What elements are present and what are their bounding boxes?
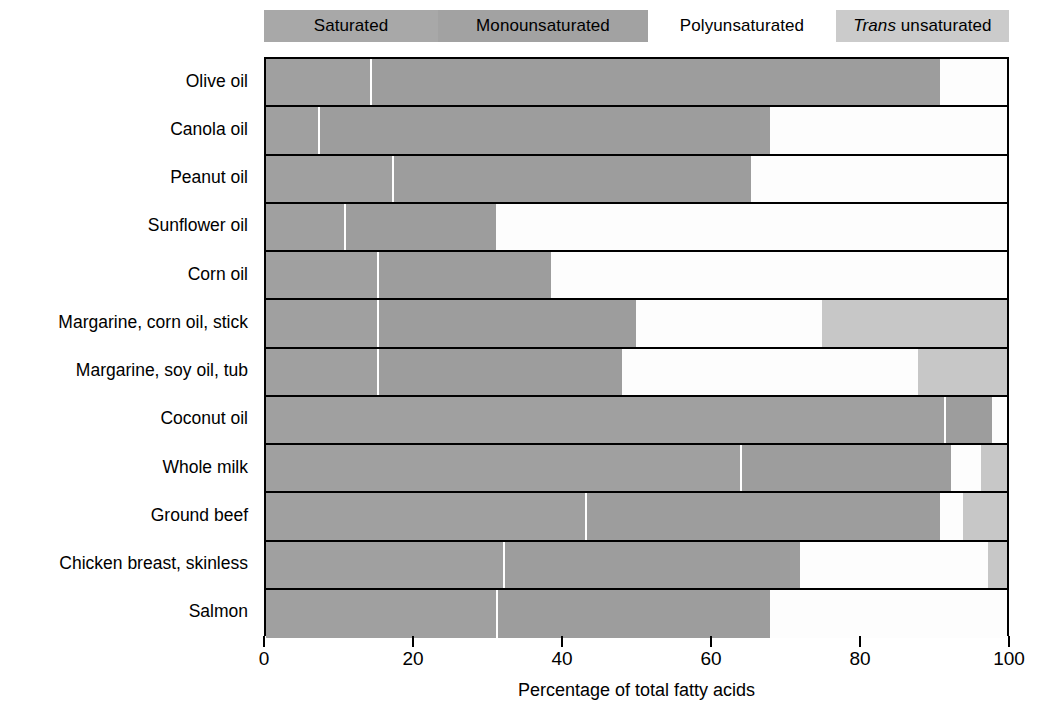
bar-row (266, 445, 1007, 493)
category-label: Sunflower oil (0, 202, 256, 250)
bar-segment-trans (963, 493, 1007, 539)
category-label: Coconut oil (0, 395, 256, 443)
bar-segment-sat (266, 59, 370, 105)
bar-segment-poly (636, 300, 821, 346)
bar-segment-poly (940, 59, 1007, 105)
category-label: Olive oil (0, 57, 256, 105)
x-axis-title: Percentage of total fatty acids (264, 680, 1009, 701)
x-tick (263, 636, 265, 647)
bar-segment-sat (266, 156, 392, 202)
x-tick-label: 80 (849, 648, 870, 670)
category-label: Salmon (0, 588, 256, 636)
category-label: Corn oil (0, 250, 256, 298)
bar-row (266, 204, 1007, 252)
plot-area (264, 57, 1009, 636)
bar-row (266, 252, 1007, 300)
bar-segment-sat (266, 300, 377, 346)
bar-segment-mono (344, 204, 496, 250)
bar-segment-poly (940, 493, 962, 539)
bar-row (266, 156, 1007, 204)
bar-row (266, 542, 1007, 590)
bar-segment-mono (377, 349, 622, 395)
x-tick (1008, 636, 1010, 647)
x-tick-label: 20 (402, 648, 423, 670)
bar-segment-mono (503, 542, 799, 588)
bar-segment-sat (266, 107, 318, 153)
bar-segment-poly (551, 252, 1007, 298)
bar-row (266, 300, 1007, 348)
bar-row (266, 590, 1007, 638)
x-tick (561, 636, 563, 647)
bar-segment-trans (822, 300, 1007, 346)
bar-segment-sat (266, 397, 944, 443)
bar-row (266, 59, 1007, 107)
bar-segment-poly (992, 397, 1007, 443)
x-tick-label: 100 (993, 648, 1025, 670)
legend-label-text: Saturated (314, 16, 389, 36)
bar-segment-poly (951, 445, 981, 491)
legend-label-text: Monounsaturated (476, 16, 610, 36)
bar-segment-sat (266, 252, 377, 298)
legend-item-polyunsaturated: Polyunsaturated (648, 10, 836, 42)
category-axis-labels: Olive oilCanola oilPeanut oilSunflower o… (0, 57, 256, 636)
bar-segment-mono (585, 493, 941, 539)
bar-segment-trans (918, 349, 1007, 395)
bar-segment-mono (944, 397, 992, 443)
bar-segment-poly (751, 156, 1007, 202)
category-label: Chicken breast, skinless (0, 540, 256, 588)
bar-segment-trans (981, 445, 1007, 491)
x-tick-label: 60 (700, 648, 721, 670)
bar-segment-mono (496, 590, 770, 638)
bar-segment-mono (370, 59, 941, 105)
category-label: Margarine, soy oil, tub (0, 347, 256, 395)
bar-row (266, 397, 1007, 445)
category-label: Peanut oil (0, 154, 256, 202)
bar-segment-poly (770, 107, 1007, 153)
bar-segment-mono (377, 300, 636, 346)
category-label: Whole milk (0, 443, 256, 491)
legend-label-italic: Trans (853, 16, 900, 36)
category-label: Canola oil (0, 105, 256, 153)
bar-segment-poly (496, 204, 1007, 250)
bar-segment-sat (266, 590, 496, 638)
x-axis-tick-labels: 020406080100 (264, 648, 1009, 674)
bar-row (266, 107, 1007, 155)
bar-segment-sat (266, 493, 585, 539)
x-tick (710, 636, 712, 647)
bar-segment-mono (377, 252, 551, 298)
bar-segment-trans (988, 542, 1007, 588)
legend-item-monounsaturated: Monounsaturated (438, 10, 648, 42)
x-tick (412, 636, 414, 647)
bar-segment-poly (622, 349, 918, 395)
x-tick-label: 40 (551, 648, 572, 670)
category-label: Margarine, corn oil, stick (0, 298, 256, 346)
bar-segment-poly (800, 542, 989, 588)
category-label: Ground beef (0, 491, 256, 539)
bar-segment-sat (266, 204, 344, 250)
x-tick-label: 0 (259, 648, 270, 670)
bar-row (266, 493, 1007, 541)
bar-segment-sat (266, 542, 503, 588)
chart-legend: SaturatedMonounsaturatedPolyunsaturatedT… (264, 10, 1009, 42)
bar-segment-mono (392, 156, 751, 202)
x-tick (859, 636, 861, 647)
fatty-acid-composition-chart: SaturatedMonounsaturatedPolyunsaturatedT… (0, 0, 1046, 722)
bar-segment-sat (266, 445, 740, 491)
legend-label-text: unsaturated (901, 16, 992, 36)
bar-segment-mono (740, 445, 951, 491)
legend-item-saturated: Saturated (264, 10, 438, 42)
bar-row (266, 349, 1007, 397)
bar-segment-mono (318, 107, 770, 153)
bar-segment-poly (770, 590, 1007, 638)
legend-item-trans: Transunsaturated (836, 10, 1009, 42)
bar-segment-sat (266, 349, 377, 395)
legend-label-text: Polyunsaturated (680, 16, 804, 36)
